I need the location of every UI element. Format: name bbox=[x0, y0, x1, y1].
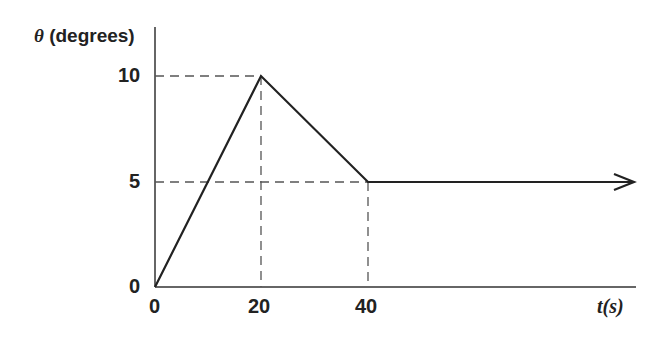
guide-lines bbox=[155, 76, 368, 287]
y-axis-label: θ (degrees) bbox=[34, 25, 135, 47]
y-tick-10: 10 bbox=[118, 64, 140, 87]
theta-series-line bbox=[155, 76, 633, 287]
x-tick-40: 40 bbox=[355, 295, 377, 318]
y-tick-0: 0 bbox=[129, 275, 140, 298]
chart-canvas bbox=[0, 0, 671, 343]
x-tick-0: 0 bbox=[149, 295, 160, 318]
y-tick-5: 5 bbox=[129, 170, 140, 193]
x-tick-20: 20 bbox=[248, 295, 270, 318]
x-axis-label: t(s) bbox=[597, 295, 624, 318]
